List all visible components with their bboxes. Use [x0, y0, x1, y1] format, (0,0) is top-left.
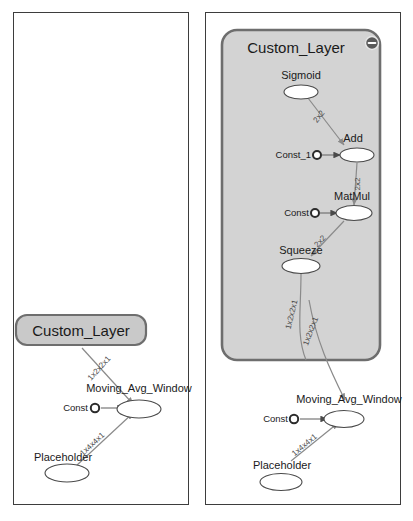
node-label-moving-avg-window-right: Moving_Avg_Window — [296, 393, 402, 405]
node-label-placeholder-right: Placeholder — [253, 459, 311, 471]
const-node-circle[interactable] — [311, 209, 319, 217]
node-label-matmul: MatMul — [334, 190, 370, 202]
node-add[interactable] — [340, 148, 374, 162]
node-squeeze[interactable] — [282, 259, 320, 274]
node-label-placeholder: Placeholder — [34, 451, 92, 463]
edge-label-group: 2x2 — [353, 177, 362, 190]
node-sigmoid[interactable] — [284, 85, 318, 99]
minus-icon[interactable] — [366, 37, 379, 50]
node-label-squeeze: Squeeze — [279, 244, 322, 256]
const-node-circle[interactable] — [91, 404, 99, 412]
const-outer-node-label: Const — [263, 413, 288, 424]
collapsed-node-label: Custom_Layer — [32, 322, 130, 339]
const1-node-circle[interactable] — [313, 151, 321, 159]
node-placeholder[interactable] — [45, 464, 89, 482]
expanded-node-label: Custom_Layer — [247, 39, 345, 56]
node-moving-avg-window-right[interactable] — [324, 411, 364, 428]
right-graph-group: Custom_Layer 1x2x2x1 2x2 Sigmoid Cons — [222, 30, 402, 491]
graph-canvas: 1x4x4x1 1x2x2x1 Custom_Layer Const Movin… — [0, 0, 413, 521]
graph-stage: 1x4x4x1 1x2x2x1 Custom_Layer Const Movin… — [0, 0, 413, 521]
edge-label-add-matmul: 2x2 — [353, 177, 362, 190]
node-matmul[interactable] — [336, 206, 372, 221]
const-outer-node-circle[interactable] — [290, 415, 298, 423]
edge-label-group: 1x4x4x1 — [290, 432, 319, 458]
const-node-label: Const — [63, 402, 88, 413]
const1-node-label: Const_1 — [276, 149, 311, 160]
node-placeholder-right[interactable] — [260, 474, 302, 491]
node-moving-avg-window[interactable] — [117, 400, 161, 418]
edge-label-placeholder-right: 1x4x4x1 — [290, 432, 319, 458]
const-node-label: Const — [284, 207, 309, 218]
left-graph-group: 1x4x4x1 1x2x2x1 Custom_Layer Const Movin… — [16, 315, 192, 482]
node-label-sigmoid: Sigmoid — [281, 69, 321, 81]
node-label-add: Add — [343, 132, 363, 144]
node-label-moving-avg-window: Moving_Avg_Window — [86, 382, 192, 394]
